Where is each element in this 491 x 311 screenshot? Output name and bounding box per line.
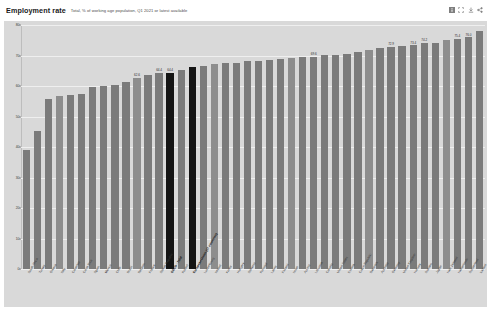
x-label-slot: New Zealand [441,271,452,311]
bar[interactable] [67,95,74,269]
bar-slot [430,25,441,269]
bar[interactable] [354,52,361,269]
bar[interactable] [266,60,273,269]
bar[interactable] [100,86,107,269]
bar[interactable] [45,99,52,269]
bar-slot [143,25,154,269]
x-label-slot: Canada [319,271,330,311]
bar-slot [76,25,87,269]
x-label-slot: United Kingdom [397,271,408,311]
bar[interactable]: 73.4 [410,45,417,269]
bar[interactable] [78,94,85,269]
bar-slot: 72.9 [386,25,397,269]
chart-canvas: 01020304050607080 62.664.464.469.672.973… [4,21,487,307]
info-icon[interactable] [449,7,455,13]
bar[interactable] [233,63,240,269]
fullscreen-icon[interactable] [458,7,464,13]
x-label-slot: Italy [54,271,65,311]
bar-slot: 64.4 [165,25,176,269]
bar[interactable] [376,48,383,269]
x-label-slot: Australia [375,271,386,311]
bar[interactable]: 62.6 [133,78,140,269]
bar[interactable]: 69.6 [310,57,317,269]
x-label-slot: Spain [87,271,98,311]
bar[interactable] [144,75,151,269]
bar-slot [397,25,408,269]
bar[interactable]: 72.9 [387,47,394,269]
bar[interactable] [34,131,41,269]
bar[interactable] [299,57,306,269]
bar-slot [198,25,209,269]
x-label-slot: Latvia [264,271,275,311]
x-label-slot: Brazil [120,271,131,311]
bar[interactable]: 64.4 [166,73,173,269]
x-label-slot: Korea [220,271,231,311]
plot-area: 01020304050607080 62.664.464.469.672.973… [21,25,485,269]
bar[interactable] [222,63,229,269]
bar-slot [264,25,275,269]
bar[interactable]: 75.4 [454,39,461,269]
bar[interactable] [178,70,185,269]
bar[interactable] [23,150,30,269]
x-label-slot: Turkey [32,271,43,311]
bar[interactable] [343,54,350,269]
bar[interactable] [365,50,372,269]
bar-slot: 64.4 [154,25,165,269]
bar-value-label: 64.4 [167,68,173,72]
bar[interactable] [332,55,339,269]
x-label-slot: Germany [386,271,397,311]
bar[interactable] [189,67,196,269]
bar-slot [286,25,297,269]
bar[interactable] [443,40,450,269]
download-icon[interactable] [468,7,474,13]
bar[interactable]: 64.4 [155,73,162,269]
bar-slot [275,25,286,269]
bar[interactable] [56,96,63,269]
bar[interactable] [398,46,405,269]
page-title: Employment rate [6,6,66,15]
bar-slot: 75.4 [452,25,463,269]
bar[interactable] [432,43,439,269]
bar[interactable]: 76.0 [465,37,472,269]
x-label-slot: France [143,271,154,311]
bar[interactable] [89,87,96,269]
bar-slot [65,25,76,269]
bar[interactable] [476,31,483,270]
bar-slot [32,25,43,269]
bar-slot [54,25,65,269]
x-axis-labels: South AfricaTurkeyGreeceItalyColombiaCos… [21,271,485,311]
bar-slot [352,25,363,269]
bar-slot [187,25,198,269]
bar[interactable] [244,61,251,269]
x-label-slot: Chile [109,271,120,311]
x-label-slot: Japan [430,271,441,311]
x-label-slot: Mexico [98,271,109,311]
bar-slot [375,25,386,269]
x-label-slot: Luxembourg [198,271,209,311]
bar[interactable] [200,66,207,269]
bar[interactable] [122,82,129,269]
bar-slot [253,25,264,269]
bar-slot [297,25,308,269]
bar[interactable] [288,58,295,269]
bar[interactable]: 74.2 [421,43,428,269]
x-label-slot: Hungary [231,271,242,311]
bar-slot [21,25,32,269]
bar[interactable] [277,59,284,269]
chart-subtitle: Total, % of working age population, Q1 2… [71,8,187,13]
x-label-slot: Costa Rica [76,271,87,311]
x-label-slot: Israel [286,271,297,311]
bar-value-label: 72.9 [388,42,394,46]
bar-value-label: 74.2 [421,38,427,42]
bar-slot [109,25,120,269]
y-tick-label: 20 [16,206,20,210]
y-tick-label: 50 [16,115,20,119]
bar-slot [231,25,242,269]
bar[interactable] [111,85,118,269]
share-icon[interactable] [477,7,483,13]
y-tick-label: 70 [16,54,20,58]
x-label-slot: Lithuania [308,271,319,311]
bar[interactable] [321,55,328,269]
bar[interactable] [255,61,262,269]
x-label-slot: Netherlands [452,271,463,311]
